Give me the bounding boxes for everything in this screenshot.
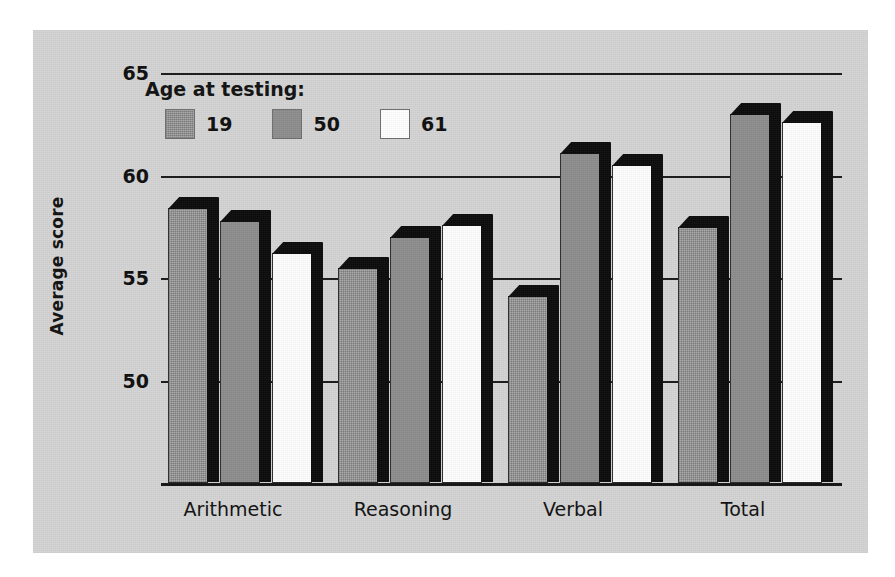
y-axis-title: Average score (47, 176, 67, 356)
legend-item[interactable]: 50 (272, 109, 339, 139)
gridline (161, 73, 842, 75)
bar-shadow-side (769, 104, 781, 482)
bar (730, 114, 770, 483)
bar-shadow-side (547, 286, 559, 482)
bar-shadow-side (429, 227, 441, 482)
bar (560, 153, 600, 483)
bar (220, 221, 260, 483)
bar-shadow-side (821, 112, 833, 482)
bar (168, 208, 208, 483)
bar (442, 225, 482, 483)
y-tick-label: 55 (91, 267, 149, 289)
bar (612, 165, 652, 483)
bar (272, 253, 312, 483)
x-tick-label: Verbal (488, 498, 658, 520)
bar (338, 268, 378, 483)
bar (508, 296, 548, 483)
bar (678, 227, 718, 483)
bar (390, 237, 430, 483)
bar (782, 122, 822, 483)
x-axis-line (161, 483, 842, 486)
bar-shadow-side (311, 243, 323, 482)
bar-shadow-side (207, 198, 219, 482)
x-tick-label: Total (658, 498, 828, 520)
legend: 195061 (165, 109, 487, 139)
bar-shadow-side (651, 155, 663, 482)
legend-label: 61 (421, 113, 447, 135)
bar-shadow-side (717, 217, 729, 482)
y-tick-label: 65 (91, 62, 149, 84)
bar-shadow-side (259, 211, 271, 482)
legend-swatch-icon (380, 109, 410, 139)
y-tick-label: 60 (91, 165, 149, 187)
chart-figure: Average score 65605550 Age at testing: 1… (33, 30, 868, 553)
x-tick-label: Reasoning (318, 498, 488, 520)
legend-label: 50 (313, 113, 339, 135)
legend-item[interactable]: 19 (165, 109, 232, 139)
legend-swatch-icon (165, 109, 195, 139)
y-tick-label: 50 (91, 370, 149, 392)
bar-shadow-side (481, 215, 493, 482)
legend-swatch-icon (272, 109, 302, 139)
legend-label: 19 (206, 113, 232, 135)
bar-shadow-side (599, 143, 611, 482)
plot-area: Average score 65605550 Age at testing: 1… (33, 30, 868, 553)
bar-shadow-side (377, 258, 389, 482)
legend-title: Age at testing: (145, 78, 305, 100)
legend-item[interactable]: 61 (380, 109, 447, 139)
x-tick-label: Arithmetic (148, 498, 318, 520)
